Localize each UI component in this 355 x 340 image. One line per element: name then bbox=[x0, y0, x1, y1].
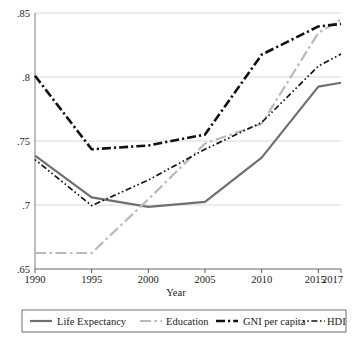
series-line-life-expectancy bbox=[35, 83, 341, 207]
x-axis-title: Year bbox=[166, 287, 186, 298]
chart-container: .65.7.75.8.85 19901995200020052010201520… bbox=[0, 0, 355, 340]
y-axis-tick-label: .65 bbox=[17, 264, 30, 275]
legend-label-life-expectancy: Life Expectancy bbox=[57, 316, 127, 327]
x-axis-tick-label: 2010 bbox=[251, 274, 272, 285]
legend-label-gni-per-capita: GNI per capita bbox=[243, 316, 306, 327]
series-line-gni-per-capita bbox=[35, 24, 341, 149]
data-series-group bbox=[35, 19, 341, 253]
gridlines-group bbox=[35, 13, 341, 269]
legend-label-hdi: HDI bbox=[327, 316, 346, 327]
x-axis-tick-label: 2000 bbox=[138, 274, 159, 285]
legend: Life ExpectancyEducationGNI per capitaHD… bbox=[22, 310, 346, 332]
x-axis-tick-label: 1990 bbox=[25, 274, 46, 285]
x-axis-tick-label: 2005 bbox=[195, 274, 216, 285]
x-axis-tick-labels: 1990199520002005201020152017 bbox=[25, 274, 344, 285]
x-axis-tick-label: 2017 bbox=[322, 274, 343, 285]
y-axis-tick-labels: .65.7.75.8.85 bbox=[17, 8, 30, 275]
line-chart: .65.7.75.8.85 19901995200020052010201520… bbox=[0, 0, 355, 340]
y-axis-tick-label: .75 bbox=[17, 136, 30, 147]
y-axis-tick-label: .85 bbox=[17, 8, 30, 19]
y-axis-tick-label: .8 bbox=[22, 72, 30, 83]
x-axis-tick-label: 1995 bbox=[81, 274, 102, 285]
tickmarks-group bbox=[35, 269, 341, 273]
y-axis-tick-label: .7 bbox=[22, 200, 30, 211]
legend-label-education: Education bbox=[166, 316, 209, 327]
